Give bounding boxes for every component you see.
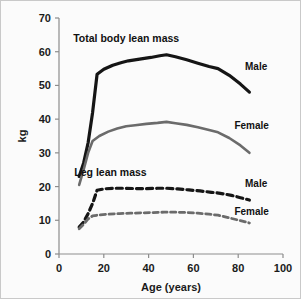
- chart-annotation-1: Leg lean mass: [74, 166, 147, 178]
- x-tick-label: 80: [232, 262, 244, 274]
- x-tick-label: 20: [98, 262, 110, 274]
- y-axis-tick-labels: 010203040506070: [39, 12, 51, 260]
- y-axis-title: kg: [16, 130, 28, 143]
- y-tick-label: 50: [39, 79, 51, 91]
- y-tick-label: 20: [39, 181, 51, 193]
- y-tick-label: 60: [39, 46, 51, 58]
- series-line-2: [79, 188, 249, 227]
- line-chart: 010203040506070 020406080100 kg Age (yea…: [1, 1, 301, 299]
- x-tick-label: 60: [187, 262, 199, 274]
- series-label-1: Female: [234, 120, 269, 131]
- x-axis-tick-labels: 020406080100: [56, 262, 292, 274]
- x-tick-label: 0: [56, 262, 62, 274]
- x-axis-title: Age (years): [141, 281, 201, 293]
- chart-figure: 010203040506070 020406080100 kg Age (yea…: [0, 0, 301, 299]
- axes-group: [59, 18, 283, 254]
- y-tick-label: 10: [39, 214, 51, 226]
- series-label-2: Male: [245, 178, 268, 189]
- x-axis-ticks: [59, 254, 283, 258]
- series-label-0: Male: [245, 61, 268, 72]
- x-tick-label: 40: [142, 262, 154, 274]
- y-tick-label: 0: [45, 248, 51, 260]
- y-tick-label: 70: [39, 12, 51, 24]
- data-curves: [79, 55, 249, 229]
- y-tick-label: 30: [39, 147, 51, 159]
- chart-annotation-0: Total body lean mass: [73, 32, 179, 44]
- y-tick-label: 40: [39, 113, 51, 125]
- series-line-0: [79, 55, 249, 177]
- x-tick-label: 100: [274, 262, 292, 274]
- series-label-3: Female: [234, 206, 269, 217]
- series-line-3: [79, 212, 249, 229]
